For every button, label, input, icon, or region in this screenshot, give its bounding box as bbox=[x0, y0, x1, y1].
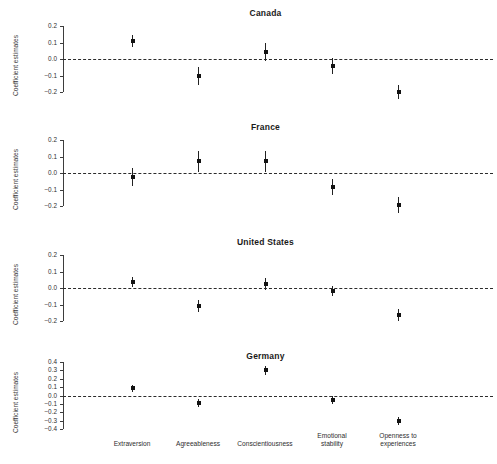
y-tick-label: −0.4 bbox=[29, 425, 57, 432]
estimate-point bbox=[131, 386, 135, 390]
y-tick-label: −0.2 bbox=[29, 88, 57, 95]
y-tick-label: 0.3 bbox=[29, 366, 57, 373]
y-tick-label: −0.1 bbox=[29, 72, 57, 79]
estimate-point bbox=[131, 39, 135, 43]
y-axis-label: Coefficient estimates bbox=[12, 264, 19, 325]
y-tick bbox=[60, 321, 63, 322]
estimate-point bbox=[397, 419, 401, 423]
y-tick bbox=[60, 370, 63, 371]
estimate-point bbox=[131, 280, 135, 284]
y-tick bbox=[60, 387, 63, 388]
y-tick-label: −0.2 bbox=[29, 317, 57, 324]
y-tick-label: −0.3 bbox=[29, 417, 57, 424]
y-tick-label: 0.2 bbox=[29, 375, 57, 382]
x-axis-label-4: Openness to experiences bbox=[358, 432, 438, 448]
panel-title-text: United States bbox=[237, 237, 294, 247]
y-tick-label: 0.1 bbox=[29, 268, 57, 275]
y-tick-label: 0.0 bbox=[29, 169, 57, 176]
y-tick-label: 0.0 bbox=[29, 392, 57, 399]
estimate-point bbox=[131, 175, 135, 179]
y-tick-label: −0.2 bbox=[29, 408, 57, 415]
panel-title-text: Canada bbox=[250, 8, 282, 18]
y-tick-label: 0.0 bbox=[29, 55, 57, 62]
y-tick bbox=[60, 429, 63, 430]
estimate-point bbox=[397, 203, 401, 207]
y-tick-label: 0.4 bbox=[29, 358, 57, 365]
y-tick bbox=[60, 157, 63, 158]
panel-title-text: Germany bbox=[246, 351, 284, 361]
panel-united-states: United StatesCoefficient estimates0.20.1… bbox=[0, 237, 497, 329]
estimate-point bbox=[197, 304, 201, 308]
panel-title: France bbox=[0, 122, 497, 132]
y-tick-label: 0.2 bbox=[29, 22, 57, 29]
y-tick-label: 0.0 bbox=[29, 284, 57, 291]
estimate-point bbox=[397, 90, 401, 94]
panel-title-text: France bbox=[251, 122, 280, 132]
estimate-point bbox=[264, 50, 268, 54]
y-tick bbox=[60, 26, 63, 27]
y-tick bbox=[60, 305, 63, 306]
estimate-point bbox=[331, 289, 335, 293]
y-tick bbox=[60, 421, 63, 422]
coefficient-plot-figure: CanadaCoefficient estimates0.20.10.0−0.1… bbox=[0, 0, 497, 464]
y-tick bbox=[60, 92, 63, 93]
panel-germany: GermanyCoefficient estimates0.40.30.20.1… bbox=[0, 351, 497, 437]
estimate-point bbox=[197, 74, 201, 78]
y-tick-label: 0.1 bbox=[29, 153, 57, 160]
zero-reference-line bbox=[63, 59, 493, 60]
y-tick bbox=[60, 255, 63, 256]
y-tick bbox=[60, 272, 63, 273]
y-tick-label: −0.1 bbox=[29, 400, 57, 407]
zero-reference-line bbox=[63, 288, 493, 289]
zero-reference-line bbox=[63, 396, 493, 397]
estimate-point bbox=[264, 368, 268, 372]
y-tick bbox=[60, 76, 63, 77]
y-tick-label: −0.2 bbox=[29, 202, 57, 209]
y-tick-label: 0.1 bbox=[29, 383, 57, 390]
zero-reference-line bbox=[63, 173, 493, 174]
panel-france: FranceCoefficient estimates0.20.10.0−0.1… bbox=[0, 122, 497, 214]
estimate-point bbox=[264, 282, 268, 286]
estimate-point bbox=[197, 159, 201, 163]
y-tick bbox=[60, 412, 63, 413]
y-axis-label: Coefficient estimates bbox=[12, 149, 19, 210]
y-tick-label: 0.1 bbox=[29, 39, 57, 46]
y-tick-label: −0.1 bbox=[29, 301, 57, 308]
y-tick bbox=[60, 206, 63, 207]
y-tick bbox=[60, 362, 63, 363]
estimate-point bbox=[264, 159, 268, 163]
estimate-point bbox=[197, 401, 201, 405]
y-tick-label: 0.2 bbox=[29, 136, 57, 143]
y-tick-label: −0.1 bbox=[29, 186, 57, 193]
estimate-point bbox=[331, 185, 335, 189]
estimate-point bbox=[397, 313, 401, 317]
estimate-point bbox=[331, 398, 335, 402]
y-tick bbox=[60, 140, 63, 141]
y-tick bbox=[60, 43, 63, 44]
y-tick bbox=[60, 190, 63, 191]
panel-title: Canada bbox=[0, 8, 497, 18]
y-axis-label: Coefficient estimates bbox=[12, 35, 19, 96]
panel-title: Germany bbox=[0, 351, 497, 361]
y-tick bbox=[60, 379, 63, 380]
panel-canada: CanadaCoefficient estimates0.20.10.0−0.1… bbox=[0, 8, 497, 100]
y-axis-label: Coefficient estimates bbox=[12, 372, 19, 433]
y-tick bbox=[60, 404, 63, 405]
estimate-point bbox=[331, 64, 335, 68]
y-tick-label: 0.2 bbox=[29, 251, 57, 258]
panel-title: United States bbox=[0, 237, 497, 247]
